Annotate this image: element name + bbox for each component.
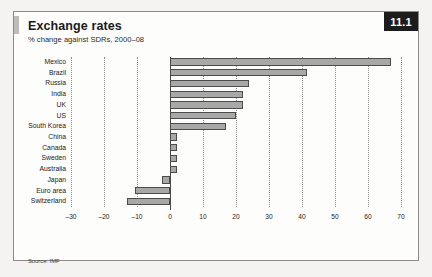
bar-mexico [170, 58, 391, 65]
x-tick-label: –20 [98, 213, 109, 220]
bar-south-korea [170, 123, 226, 130]
bar-row: Brazil [71, 68, 401, 78]
bar-row: Australia [71, 164, 401, 174]
x-tick-label: –10 [131, 213, 142, 220]
category-label-sweden: Sweden [41, 153, 66, 163]
bar-china [170, 133, 177, 140]
bar-row: Switzerland [71, 196, 401, 206]
category-label-russia: Russia [45, 78, 66, 88]
chart-plot-area: –30–20–10010203040506070 MexicoBrazilRus… [71, 57, 401, 207]
bar-us [170, 112, 236, 119]
bar-row: Japan [71, 175, 401, 185]
bar-australia [170, 166, 177, 173]
bar-euro-area [135, 187, 170, 194]
category-label-australia: Australia [40, 164, 66, 174]
bar-row: Euro area [71, 186, 401, 196]
category-label-canada: Canada [42, 143, 66, 153]
x-tick-label: 30 [265, 213, 272, 220]
bar-row: India [71, 89, 401, 99]
x-tick-label: 20 [232, 213, 239, 220]
bar-row: US [71, 111, 401, 121]
bar-india [170, 91, 243, 98]
gridline-70 [401, 57, 402, 207]
bar-row: Mexico [71, 57, 401, 67]
x-tick-label: 70 [397, 213, 404, 220]
bar-uk [170, 101, 243, 108]
source-note: Source: IMF [28, 258, 60, 264]
bar-russia [170, 80, 249, 87]
bar-canada [170, 144, 177, 151]
category-label-uk: UK [57, 100, 66, 110]
x-tick-label: 60 [364, 213, 371, 220]
chart-subtitle: % change against SDRs, 2000–08 [28, 35, 144, 44]
category-label-mexico: Mexico [44, 57, 66, 67]
category-label-us: US [57, 111, 66, 121]
bar-japan [162, 176, 170, 183]
bar-row: China [71, 132, 401, 142]
bar-row: Canada [71, 143, 401, 153]
bar-row: Sweden [71, 153, 401, 163]
bar-switzerland [127, 198, 170, 205]
category-label-euro-area: Euro area [36, 186, 66, 196]
category-label-japan: Japan [47, 175, 66, 185]
x-tick-label: –30 [65, 213, 76, 220]
category-label-india: India [51, 89, 66, 99]
left-edge-tab [14, 16, 19, 34]
category-label-south-korea: South Korea [28, 121, 66, 131]
bar-row: UK [71, 100, 401, 110]
bar-row: Russia [71, 78, 401, 88]
category-label-brazil: Brazil [49, 68, 66, 78]
bar-row: South Korea [71, 121, 401, 131]
figure-page: Exchange rates % change against SDRs, 20… [0, 0, 432, 277]
category-label-china: China [48, 132, 66, 142]
figure-number-badge: 11.1 [384, 12, 418, 31]
x-tick-label: 0 [168, 213, 172, 220]
page-title: Exchange rates [28, 19, 122, 33]
x-tick-label: 40 [298, 213, 305, 220]
x-tick-label: 10 [199, 213, 206, 220]
bar-sweden [170, 155, 177, 162]
x-tick-label: 50 [331, 213, 338, 220]
category-label-switzerland: Switzerland [31, 196, 66, 206]
bar-brazil [170, 69, 307, 76]
